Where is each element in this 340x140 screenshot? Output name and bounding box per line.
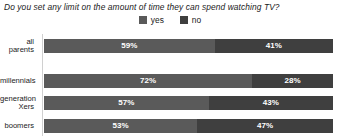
legend-label-yes: yes — [151, 16, 164, 24]
bar-track-millennials: 72% 28% — [44, 74, 333, 88]
bar-segment-no[interactable]: 47% — [197, 119, 333, 133]
bar-track-all-parents: 59% 41% — [44, 39, 333, 53]
bar-segment-yes[interactable]: 59% — [44, 39, 215, 53]
bar-row-generation-xers: generation Xers 57% 43% — [0, 96, 340, 110]
category-label-all-parents: all parents — [0, 38, 38, 55]
bar-value-label-no: 41% — [266, 42, 282, 50]
bar-row-all-parents: all parents 59% 41% — [0, 39, 340, 53]
category-label-boomers: boomers — [0, 122, 38, 130]
category-label-generation-xers: generation Xers — [0, 95, 38, 112]
bar-row-boomers: boomers 53% 47% — [0, 119, 340, 133]
bar-segment-yes[interactable]: 72% — [44, 74, 252, 88]
bar-track-generation-xers: 57% 43% — [44, 96, 333, 110]
bar-value-label-no: 43% — [263, 99, 279, 107]
bar-segment-yes[interactable]: 53% — [44, 119, 197, 133]
stacked-bar-chart: Do you set any limit on the amount of ti… — [0, 0, 340, 140]
bar-value-label-yes: 53% — [113, 122, 129, 130]
bar-value-label-yes: 59% — [121, 42, 137, 50]
bar-value-label-no: 47% — [257, 122, 273, 130]
bar-value-label-yes: 57% — [118, 99, 134, 107]
legend-label-no: no — [192, 16, 201, 24]
category-label-millennials: millennials — [0, 77, 38, 85]
legend-item-yes[interactable]: yes — [139, 16, 164, 24]
chart-legend: yes no — [0, 16, 340, 24]
plot-area: all parents 59% 41% millennials 72% 28% — [0, 34, 340, 138]
bar-segment-yes[interactable]: 57% — [44, 96, 209, 110]
legend-item-no[interactable]: no — [180, 16, 201, 24]
bar-segment-no[interactable]: 28% — [252, 74, 333, 88]
bar-segment-no[interactable]: 41% — [215, 39, 333, 53]
legend-swatch-no-icon — [180, 16, 188, 24]
bar-value-label-no: 28% — [285, 77, 301, 85]
chart-title: Do you set any limit on the amount of ti… — [4, 2, 280, 12]
bar-segment-no[interactable]: 43% — [209, 96, 333, 110]
bar-value-label-yes: 72% — [140, 77, 156, 85]
legend-swatch-yes-icon — [139, 16, 147, 24]
bar-row-millennials: millennials 72% 28% — [0, 74, 340, 88]
bar-track-boomers: 53% 47% — [44, 119, 333, 133]
